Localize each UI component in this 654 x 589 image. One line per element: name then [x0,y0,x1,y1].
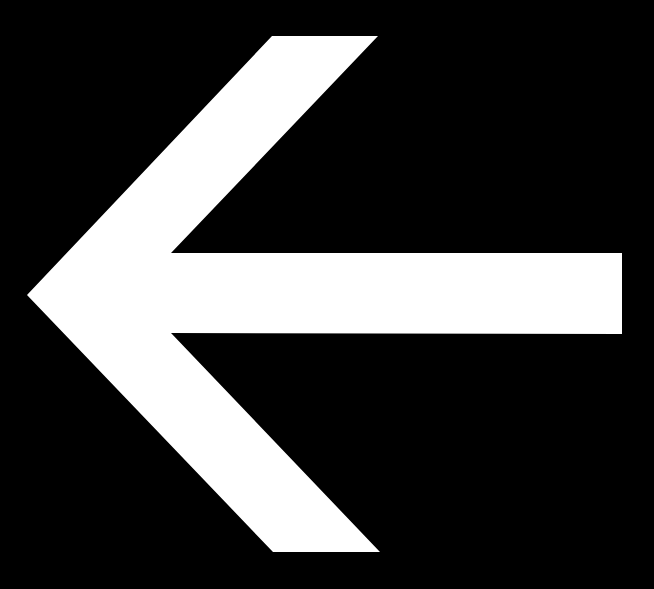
arrow-left-icon[interactable]: Left-pointing arrow [0,0,654,589]
icon-canvas: Left-pointing arrow [0,0,654,589]
